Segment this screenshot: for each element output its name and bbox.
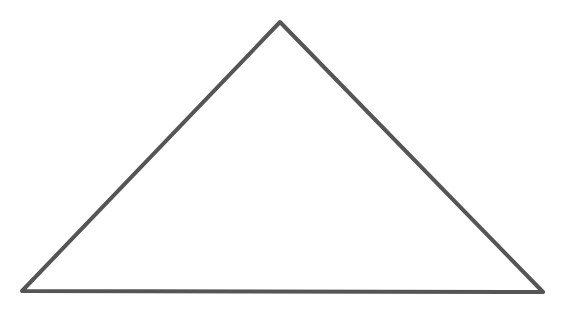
triangle-shape <box>22 22 543 292</box>
diagram-canvas <box>0 0 568 310</box>
